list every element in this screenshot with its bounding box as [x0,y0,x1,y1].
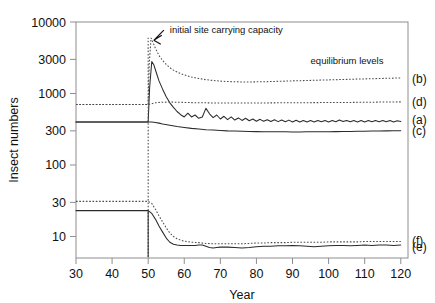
y-tick-label: 300 [45,124,66,138]
y-tick-label: 1000 [38,87,66,101]
insect-population-chart: 1030100300100030001000030405060708090100… [0,0,435,303]
x-tick-label: 120 [390,267,411,281]
x-tick-label: 60 [177,267,191,281]
annotation-carrying-capacity: initial site carrying capacity [170,24,283,35]
series-label-c: (c) [412,124,426,138]
x-tick-label: 70 [213,267,227,281]
x-axis-label: Year [229,288,254,302]
x-tick-label: 40 [105,267,119,281]
x-tick-label: 80 [249,267,263,281]
y-tick-label: 3000 [38,53,66,67]
x-tick-label: 110 [355,267,375,281]
y-axis-label: Insect numbers [7,97,21,182]
series-c [76,122,401,132]
y-tick-label: 10 [52,230,66,244]
series-label-f: (f) [412,234,423,248]
series-label-b: (b) [412,72,427,86]
x-tick-label: 100 [318,267,339,281]
x-tick-label: 30 [69,267,83,281]
y-tick-label: 30 [52,196,66,210]
series-label-d: (d) [412,95,427,109]
annotation-arrow-carrying-capacity [154,30,164,44]
series-f [76,201,401,243]
series-e [76,211,401,248]
x-tick-label: 50 [141,267,155,281]
series-b [76,38,401,105]
annotation-equilibrium-levels: equilibrium levels [311,55,384,66]
series-a [76,62,401,122]
series-d [76,102,401,105]
chart-svg: 1030100300100030001000030405060708090100… [0,0,435,303]
y-tick-label: 10000 [31,16,66,30]
x-tick-label: 90 [286,267,300,281]
y-tick-label: 100 [45,158,66,172]
